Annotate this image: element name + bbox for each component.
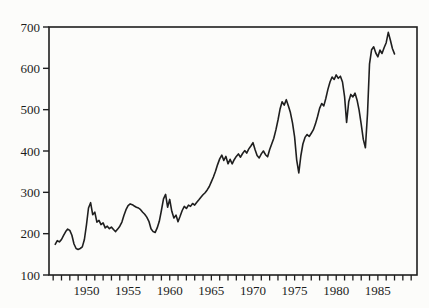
y-tick-label: 300 — [21, 185, 41, 200]
plot-border — [49, 27, 417, 275]
chart-figure: 100200300400500600700 195019551960196519… — [0, 0, 429, 308]
y-axis-group: 100200300400500600700 — [21, 20, 50, 283]
y-tick-label: 500 — [21, 102, 41, 117]
y-tick-label: 200 — [21, 226, 41, 241]
x-tick-label: 1955 — [115, 283, 141, 298]
x-axis-group: 19501955196019651970197519801985 — [53, 275, 411, 298]
line-chart: 100200300400500600700 195019551960196519… — [0, 0, 429, 308]
x-tick-label: 1960 — [157, 283, 183, 298]
data-line — [55, 32, 394, 249]
y-tick-label: 600 — [21, 61, 41, 76]
plot-box-group — [49, 27, 417, 275]
data-line-group — [55, 32, 394, 249]
x-tick-label: 1950 — [73, 283, 99, 298]
x-tick-label: 1975 — [282, 283, 308, 298]
y-tick-label: 700 — [21, 20, 41, 35]
y-tick-label: 100 — [21, 268, 41, 283]
x-tick-label: 1965 — [198, 283, 224, 298]
x-tick-label: 1970 — [240, 283, 266, 298]
x-tick-label: 1980 — [323, 283, 349, 298]
x-tick-label: 1985 — [365, 283, 391, 298]
y-tick-label: 400 — [21, 144, 41, 159]
